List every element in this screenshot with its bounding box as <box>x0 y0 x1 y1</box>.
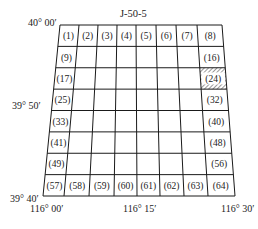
cell-label: (57) <box>47 181 63 192</box>
cell-label: (16) <box>204 53 220 64</box>
grid-lines <box>43 25 235 196</box>
latitude-label-top: 40° 00′ <box>28 18 57 28</box>
cell-label: (8) <box>205 31 216 42</box>
cell-label: (62) <box>164 181 180 192</box>
cell-label: (61) <box>140 181 156 192</box>
cell-label: (48) <box>210 138 226 149</box>
cell-label: (1) <box>63 31 74 42</box>
cell-label: (6) <box>161 31 172 42</box>
cell-label: (58) <box>69 181 85 192</box>
longitude-label-middle: 116° 15′ <box>123 204 156 214</box>
sheet-title: J-50-5 <box>120 9 147 19</box>
cell-label: (24) <box>205 74 221 85</box>
cell-label: (17) <box>57 74 73 85</box>
cell-label: (64) <box>213 181 229 192</box>
grid-col-line <box>136 25 137 196</box>
cell-label: (7) <box>182 31 193 42</box>
map-sheet-grid: (1)(2)(3)(4)(5)(6)(7)(8)(9)(16)(17)(24)(… <box>0 0 258 229</box>
cell-label: (41) <box>51 138 67 149</box>
cell-label: (40) <box>208 117 224 128</box>
cell-label: (3) <box>102 31 113 42</box>
longitude-label-left: 116° 00′ <box>30 204 63 214</box>
cell-label: (32) <box>207 95 223 106</box>
cell-label: (25) <box>55 95 71 106</box>
cell-label: (49) <box>49 159 65 170</box>
cell-label: (9) <box>61 53 72 64</box>
cell-label: (63) <box>187 181 203 192</box>
cell-label: (60) <box>118 181 134 192</box>
cell-label: (2) <box>82 31 93 42</box>
cell-labels: (1)(2)(3)(4)(5)(6)(7)(8)(9)(16)(17)(24)(… <box>47 31 229 192</box>
cell-label: (4) <box>121 31 132 42</box>
latitude-label-middle: 39° 50′ <box>12 101 41 111</box>
cell-label: (5) <box>141 31 152 42</box>
cell-label: (33) <box>53 117 69 128</box>
cell-label: (59) <box>94 181 110 192</box>
cell-label: (56) <box>211 159 227 170</box>
longitude-label-right: 116° 30′ <box>221 204 254 214</box>
